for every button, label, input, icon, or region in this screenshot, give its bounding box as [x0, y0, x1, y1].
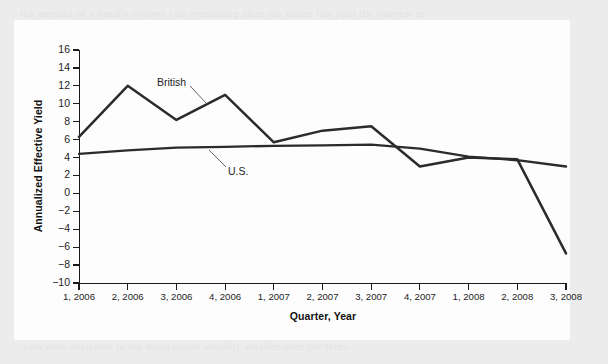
- x-tick: [78, 284, 79, 290]
- series-line-us: [79, 145, 566, 167]
- y-axis-title: Annualized Effective Yield: [32, 66, 44, 266]
- y-tick: [73, 264, 79, 265]
- y-tick: [73, 211, 79, 212]
- x-tick-label: 1, 2006: [52, 291, 106, 302]
- y-tick-label: −8: [44, 258, 70, 270]
- x-tick: [468, 284, 469, 290]
- x-tick: [371, 284, 372, 290]
- y-tick-label: 14: [44, 61, 70, 73]
- x-tick-label: 4, 2006: [198, 291, 252, 302]
- x-axis-title: Quarter, Year: [79, 310, 567, 322]
- x-tick-label: 2, 2006: [101, 291, 155, 302]
- x-tick: [322, 284, 323, 290]
- y-tick-label: 10: [44, 97, 70, 109]
- y-tick: [73, 157, 79, 158]
- x-tick-label: 1, 2007: [247, 291, 301, 302]
- x-tick-label: 1, 2008: [442, 291, 496, 302]
- x-tick: [176, 284, 177, 290]
- x-tick-label: 4, 2007: [393, 291, 447, 302]
- x-tick: [127, 284, 128, 290]
- leader-line-us: [209, 150, 226, 167]
- series-label-us: U.S.: [228, 165, 248, 177]
- y-tick-label: −6: [44, 240, 70, 252]
- y-tick-label: −2: [44, 204, 70, 216]
- x-tick-label: 2, 2007: [296, 291, 350, 302]
- x-tick: [517, 284, 518, 290]
- y-tick: [73, 247, 79, 248]
- y-tick-label: 2: [44, 168, 70, 180]
- x-tick-label: 3, 2007: [344, 291, 398, 302]
- x-tick: [419, 284, 420, 290]
- series-line-british: [79, 86, 566, 254]
- y-axis-line: [79, 50, 80, 284]
- x-tick-label: 3, 2006: [149, 291, 203, 302]
- x-tick-label: 3, 2008: [539, 291, 593, 302]
- x-tick-label: 2, 2008: [490, 291, 544, 302]
- leader-line-british: [190, 86, 207, 104]
- y-tick: [73, 121, 79, 122]
- y-tick-label: 8: [44, 115, 70, 127]
- y-tick: [73, 67, 79, 68]
- y-tick: [73, 49, 79, 50]
- y-tick-label: 16: [44, 43, 70, 55]
- series-label-british: British: [157, 76, 186, 88]
- y-tick-label: 12: [44, 79, 70, 91]
- y-tick: [73, 103, 79, 104]
- y-tick: [73, 175, 79, 176]
- y-tick-label: 6: [44, 133, 70, 145]
- x-tick: [273, 284, 274, 290]
- y-tick-label: 4: [44, 151, 70, 163]
- y-tick: [73, 139, 79, 140]
- x-tick: [565, 284, 566, 290]
- x-tick: [225, 284, 226, 290]
- page-background: the amount of a bond's coupon rate remai…: [0, 0, 608, 364]
- y-tick-label: 0: [44, 186, 70, 198]
- line-chart: 1614121086420−2−4−6−8−10 1, 20062, 20063…: [0, 0, 608, 364]
- y-tick-label: −10: [44, 276, 70, 288]
- y-tick: [73, 229, 79, 230]
- y-tick: [73, 193, 79, 194]
- y-tick-label: −4: [44, 222, 70, 234]
- y-tick: [73, 85, 79, 86]
